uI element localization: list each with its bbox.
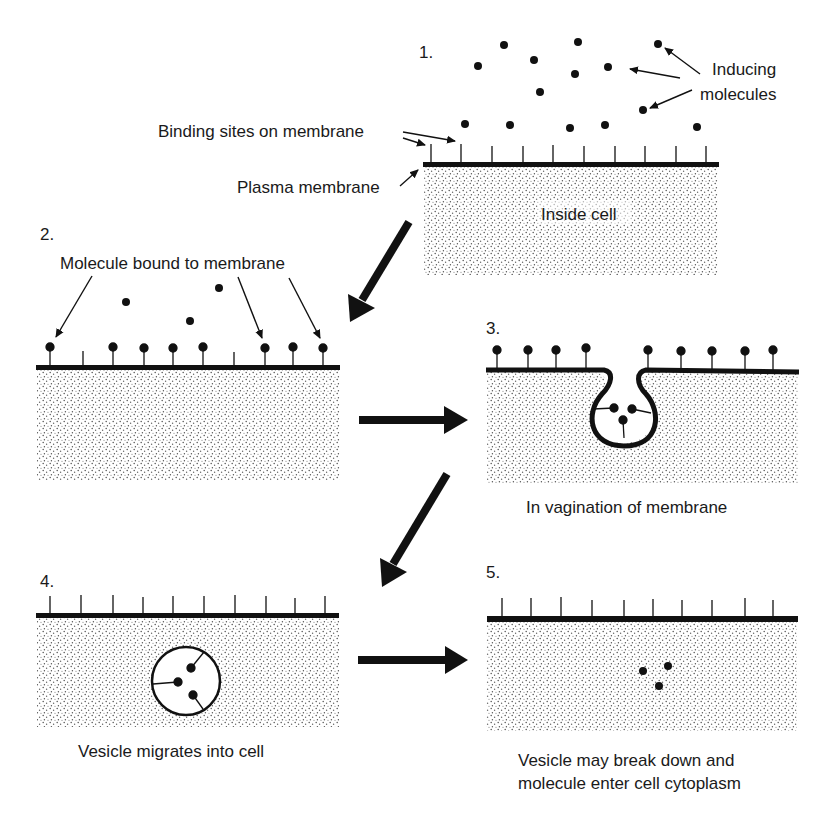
free-molecules	[122, 284, 223, 325]
plasma-membrane-pointer-arrow	[400, 170, 418, 186]
step-3-panel: 3. In vagination of membrane	[486, 319, 799, 517]
plasma-membrane	[423, 162, 719, 167]
inside-cell-label: Inside cell	[541, 205, 617, 224]
pinocytosis-diagram: 1. Inducing molecules Binding sites on m…	[0, 0, 837, 822]
bound-receptors	[46, 343, 327, 365]
step-5-panel: 5. Vesicle may break down and molecule e…	[486, 563, 798, 793]
inducing-molecules	[461, 38, 701, 132]
bound-receptors	[493, 344, 777, 371]
arrow-step2-to-step3	[359, 406, 468, 434]
arrow-step1-to-step2	[348, 222, 409, 322]
binding-sites-label: Binding sites on membrane	[158, 122, 364, 141]
step-5-number: 5.	[486, 563, 500, 582]
step-4-number: 4.	[40, 572, 54, 591]
step-4-caption: Vesicle migrates into cell	[78, 742, 264, 761]
step-3-number: 3.	[486, 319, 500, 338]
plasma-membrane	[36, 365, 340, 370]
plasma-membrane	[36, 613, 339, 618]
inducing-label: Inducing	[712, 60, 776, 79]
binding-sites	[431, 144, 706, 162]
molecule-bound-label: Molecule bound to membrane	[60, 254, 285, 273]
plasma-membrane-label: Plasma membrane	[237, 178, 380, 197]
vesicle	[152, 647, 220, 715]
step-2-number: 2.	[40, 225, 54, 244]
step-3-caption: In vagination of membrane	[526, 498, 727, 517]
step-5-caption-line-2: molecule enter cell cytoplasm	[518, 774, 741, 793]
plasma-membrane	[487, 616, 798, 622]
step-2-panel: 2. Molecule bound to membrane	[36, 225, 340, 480]
inducing-pointer-arrows	[630, 48, 700, 108]
arrow-step3-to-step4	[380, 474, 447, 587]
cytoplasm-region	[37, 368, 340, 480]
step-4-panel: 4. Vesicle migrates into cell	[36, 572, 339, 761]
cytoplasm-region	[486, 621, 797, 731]
molecules-label: molecules	[700, 85, 777, 104]
bound-pointer-arrows	[56, 276, 320, 338]
binding-sites-pointer-arrows	[403, 132, 455, 145]
step-1-panel: 1. Inducing molecules Binding sites on m…	[158, 38, 777, 275]
arrow-step4-to-step5	[358, 646, 468, 674]
step-5-caption-line-1: Vesicle may break down and	[518, 751, 734, 770]
binding-sites	[50, 595, 325, 613]
binding-sites	[502, 597, 773, 616]
step-1-number: 1.	[419, 43, 433, 62]
